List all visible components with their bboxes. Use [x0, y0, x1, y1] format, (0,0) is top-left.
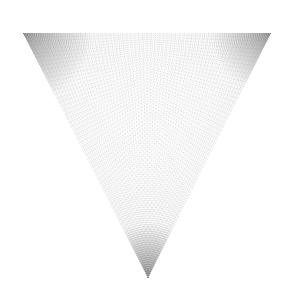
moire-triangle-figure — [0, 0, 301, 305]
triangle-body — [0, 0, 301, 305]
corner-shade-bottom — [0, 0, 301, 305]
